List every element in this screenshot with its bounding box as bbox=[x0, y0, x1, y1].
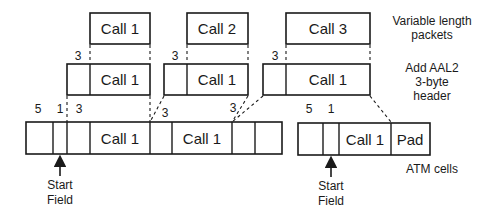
packet-row: Call 1 Call 2 Call 3 Variable length pac… bbox=[90, 13, 472, 44]
packets-row-label-line1: Variable length bbox=[392, 14, 471, 28]
aal2-row-label-line3: header bbox=[413, 89, 450, 103]
packet-call-3-label: Call 3 bbox=[309, 20, 347, 37]
aal2-header-size-3: 3 bbox=[272, 49, 279, 63]
start-field-annotation-2: Start Field bbox=[318, 162, 344, 208]
atm-cell-2: 5 1 Call 1 Pad bbox=[298, 102, 430, 155]
aal2-packet-3: Call 1 bbox=[263, 64, 370, 95]
packet-call-2: Call 2 bbox=[187, 13, 248, 44]
aal2-packet-3-label: Call 1 bbox=[309, 71, 347, 88]
atm-cell-1-payload-2: Call 1 bbox=[183, 130, 221, 147]
start-field-annotation-1: Start Field bbox=[47, 161, 73, 207]
atm-cell-2-payload: Call 1 bbox=[346, 131, 384, 148]
aal2-packet-1: Call 1 bbox=[67, 64, 150, 95]
packet-call-1: Call 1 bbox=[90, 13, 150, 44]
atm-cell-1-header-size: 5 bbox=[35, 102, 42, 116]
atm-cell-1-aal2-header-size-2: 3 bbox=[162, 106, 169, 120]
atm-row-label: ATM cells bbox=[406, 162, 458, 176]
aal2-row-label-line1: Add AAL2 bbox=[405, 61, 459, 75]
aal2-row-label-line2: 3-byte bbox=[415, 75, 449, 89]
aal2-packet-2: Call 1 bbox=[164, 64, 248, 95]
start-field-label-2-line1: Start bbox=[318, 179, 344, 193]
aal2-packet-2-label: Call 1 bbox=[198, 71, 236, 88]
start-field-label-2-line2: Field bbox=[318, 194, 344, 208]
aal2-packet-1-label: Call 1 bbox=[101, 71, 139, 88]
atm-cell-1-aal2-header-size-3: 3 bbox=[230, 101, 237, 115]
packet-call-1-label: Call 1 bbox=[101, 20, 139, 37]
aal2-header-size-2: 3 bbox=[172, 49, 179, 63]
atm-cell-1-start-field-size: 1 bbox=[57, 102, 64, 116]
start-field-label-1-line2: Field bbox=[47, 193, 73, 207]
packet-to-aal2-connectors bbox=[90, 45, 370, 63]
atm-cell-2-start-field-size: 1 bbox=[328, 102, 335, 116]
start-field-label-1-line1: Start bbox=[47, 178, 73, 192]
atm-cell-2-header-size: 5 bbox=[306, 102, 313, 116]
atm-cell-2-pad: Pad bbox=[397, 131, 424, 148]
aal2-row: 3 3 3 Call 1 Call 1 Call 1 Add AAL2 3-by… bbox=[67, 49, 459, 103]
atm-cell-1-aal2-header-size-1: 3 bbox=[76, 102, 83, 116]
atm-cell-1: 5 1 3 3 3 Call 1 Call 1 bbox=[26, 101, 282, 154]
aal2-header-size-1: 3 bbox=[75, 49, 82, 63]
packet-call-3: Call 3 bbox=[286, 13, 370, 44]
aal2-diagram: Call 1 Call 2 Call 3 Variable length pac… bbox=[0, 0, 484, 216]
packets-row-label-line2: packets bbox=[411, 28, 452, 42]
packet-call-2-label: Call 2 bbox=[198, 20, 236, 37]
atm-cell-1-payload-1: Call 1 bbox=[101, 130, 139, 147]
